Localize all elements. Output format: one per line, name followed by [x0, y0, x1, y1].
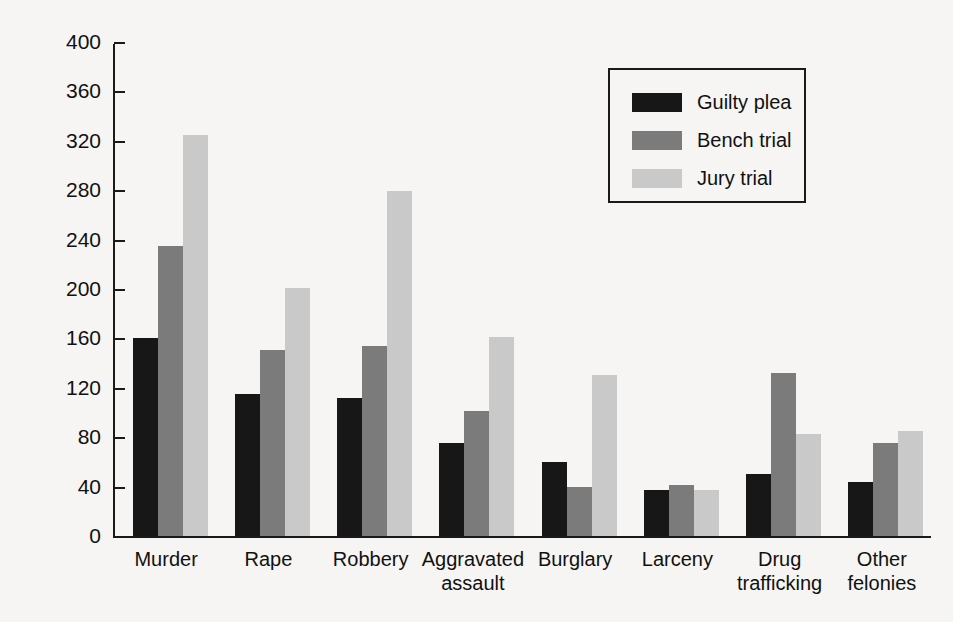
bar-group	[542, 44, 617, 536]
bar[interactable]	[746, 474, 771, 536]
bar[interactable]	[489, 337, 514, 536]
legend-item[interactable]: Guilty plea	[632, 84, 804, 120]
bar[interactable]	[235, 394, 260, 536]
legend-label: Jury trial	[697, 167, 773, 190]
legend-swatch	[632, 93, 682, 112]
bar[interactable]	[464, 411, 489, 536]
bar[interactable]	[133, 338, 158, 536]
bar[interactable]	[337, 398, 362, 536]
y-tick-label: 240	[66, 228, 101, 252]
bar-group	[439, 44, 514, 536]
bar[interactable]	[873, 443, 898, 536]
legend-label: Bench trial	[697, 129, 792, 152]
y-tick-label: 200	[66, 277, 101, 301]
y-tick-label: 160	[66, 326, 101, 350]
legend-swatch	[632, 169, 682, 188]
bar-series-container	[117, 44, 931, 536]
y-tick-label: 320	[66, 129, 101, 153]
bar[interactable]	[439, 443, 464, 536]
legend-swatch	[632, 131, 682, 150]
bar[interactable]	[694, 490, 719, 536]
y-tick-label: 400	[66, 30, 101, 54]
bar[interactable]	[567, 487, 592, 536]
y-tick-label: 360	[66, 79, 101, 103]
y-tick-label: 120	[66, 376, 101, 400]
y-tick-label: 80	[78, 425, 101, 449]
legend-label: Guilty plea	[697, 91, 792, 114]
y-tick-label: 0	[89, 524, 101, 548]
legend-item[interactable]: Jury trial	[632, 160, 804, 196]
y-tick-label: 40	[78, 475, 101, 499]
bar[interactable]	[669, 485, 694, 536]
bar[interactable]	[898, 431, 923, 536]
legend: Guilty pleaBench trialJury trial	[608, 68, 806, 203]
bar[interactable]	[592, 375, 617, 536]
bar[interactable]	[183, 135, 208, 536]
bar[interactable]	[848, 482, 873, 536]
plot-area: 04080120160200240280320360400 MurderRape…	[113, 44, 931, 538]
x-axis-label: Other felonies	[821, 548, 943, 595]
chart-page: Mean prison sentence (months) 0408012016…	[0, 0, 953, 622]
bar[interactable]	[387, 191, 412, 536]
bar[interactable]	[542, 462, 567, 536]
bar[interactable]	[285, 288, 310, 536]
y-tick-label: 280	[66, 178, 101, 202]
bar-group	[133, 44, 208, 536]
bar-group	[848, 44, 923, 536]
bar[interactable]	[796, 434, 821, 537]
bar[interactable]	[260, 350, 285, 536]
bar[interactable]	[644, 490, 669, 536]
bar-group	[337, 44, 412, 536]
legend-item[interactable]: Bench trial	[632, 122, 804, 158]
bar[interactable]	[362, 346, 387, 536]
bar-group	[235, 44, 310, 536]
bar[interactable]	[158, 246, 183, 536]
bar[interactable]	[771, 373, 796, 536]
